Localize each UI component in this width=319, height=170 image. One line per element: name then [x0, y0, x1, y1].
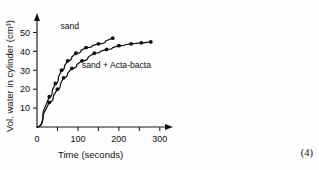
- data-point: [60, 68, 64, 72]
- data-point: [149, 40, 153, 44]
- y-tick-label: 50: [20, 28, 30, 38]
- data-point: [47, 95, 51, 99]
- x-tick-label: 0: [34, 134, 39, 144]
- data-point: [97, 42, 101, 46]
- y-tick-label: 10: [20, 103, 30, 113]
- data-point: [54, 82, 58, 86]
- data-point: [84, 46, 88, 50]
- question-marks: (4): [301, 147, 313, 158]
- line-chart: Vol. water in cylinder (cm³) Time (secon…: [0, 0, 270, 170]
- y-axis-arrow: [34, 13, 40, 21]
- data-point: [111, 36, 115, 40]
- y-tick-label: 40: [20, 47, 30, 57]
- data-point: [66, 59, 70, 63]
- data-point: [70, 66, 74, 70]
- data-point: [117, 44, 121, 48]
- figure-page: Vol. water in cylinder (cm³) Time (secon…: [0, 0, 319, 170]
- x-tick-label: 100: [70, 134, 85, 144]
- x-axis-ticks: 0100200300: [34, 127, 167, 144]
- data-point: [92, 51, 96, 55]
- y-tick-label: 30: [20, 66, 30, 76]
- series-label-sand-acta-bacta: sand + Acta-bacta: [82, 60, 151, 70]
- series-label-sand: sand: [60, 21, 79, 31]
- data-point: [47, 101, 51, 105]
- data-point: [56, 87, 60, 91]
- axes: [34, 13, 173, 130]
- data-point: [74, 51, 78, 55]
- data-point: [105, 48, 109, 52]
- x-tick-label: 200: [111, 134, 126, 144]
- data-point: [129, 42, 133, 46]
- y-axis-ticks: 1020304050: [20, 28, 37, 114]
- x-axis-arrow: [165, 124, 173, 130]
- data-point: [139, 41, 143, 45]
- chart-figure: Vol. water in cylinder (cm³) Time (secon…: [0, 0, 270, 170]
- x-axis-label: Time (seconds): [58, 149, 123, 160]
- y-axis-label: Vol. water in cylinder (cm³): [4, 20, 15, 132]
- series-layer: [37, 36, 153, 127]
- x-tick-label: 300: [152, 134, 167, 144]
- data-point: [62, 76, 66, 80]
- y-tick-label: 20: [20, 84, 30, 94]
